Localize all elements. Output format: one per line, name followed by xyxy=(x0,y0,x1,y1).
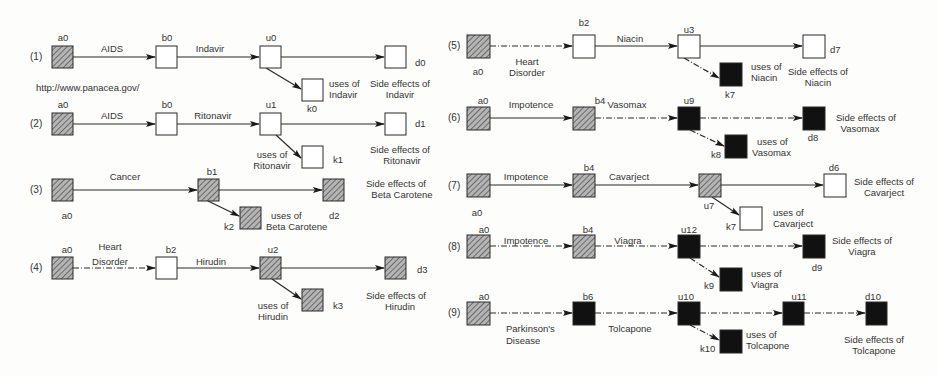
uses-label: Indavir xyxy=(329,89,358,100)
side-effects-label: Side effects of xyxy=(370,144,430,155)
node-d0 xyxy=(385,46,406,68)
node-d9 xyxy=(803,235,825,258)
node-u0 xyxy=(260,46,281,68)
node-label-d8: d8 xyxy=(808,132,819,143)
node-label-b0: b0 xyxy=(162,99,173,110)
node-b2-row5 xyxy=(573,35,595,58)
node-d1 xyxy=(385,113,406,135)
node-k2 xyxy=(240,207,261,229)
edge-label-disease: Disorder xyxy=(92,256,128,267)
edge-label-disease: AIDS xyxy=(101,110,123,121)
node-label-k7: k7 xyxy=(725,89,735,100)
node-label-a0: a0 xyxy=(472,207,483,218)
node-label-d2: d2 xyxy=(329,210,340,221)
node-a0-row5 xyxy=(467,35,490,58)
node-label-a0: a0 xyxy=(62,244,73,255)
node-k9 xyxy=(720,268,742,291)
node-k1 xyxy=(302,146,323,168)
side-effects-label: Hirudin xyxy=(385,301,415,312)
node-b2-row4 xyxy=(156,257,177,279)
node-label-d7: d7 xyxy=(830,44,841,55)
node-label-k7: k7 xyxy=(726,221,736,232)
side-effects-label: Niacin xyxy=(805,77,831,88)
node-label-d6: d6 xyxy=(829,162,840,173)
node-d8 xyxy=(803,107,825,130)
source-url: http://www.panacea.gov/ xyxy=(36,82,140,93)
row-number-9: (9) xyxy=(448,307,460,318)
node-label-u9: u9 xyxy=(684,95,695,106)
node-label-b2: b2 xyxy=(166,244,177,255)
node-label-a0: a0 xyxy=(479,291,490,302)
side-effects-label: Side effects of xyxy=(844,334,904,345)
side-effects-label: Side effects of xyxy=(788,66,848,77)
node-label-u0: u0 xyxy=(266,32,277,43)
edge-label-drug: Indavir xyxy=(196,43,225,54)
edge-label-drug: Niacin xyxy=(617,33,643,44)
edge-label-disease: AIDS xyxy=(101,43,123,54)
edge-label-drug: Hirudin xyxy=(196,256,226,267)
node-u1 xyxy=(260,113,281,135)
edge-label-disease: Parkinson's xyxy=(506,323,555,334)
node-label-k2: k2 xyxy=(224,221,234,232)
node-d2 xyxy=(323,179,344,201)
node-label-a0: a0 xyxy=(62,210,73,221)
edge-label-disease: Impotence xyxy=(504,235,548,246)
uses-label: Niacin xyxy=(751,72,777,83)
node-a0-row1 xyxy=(52,46,73,68)
node-b0-row2 xyxy=(156,113,177,135)
node-b1 xyxy=(198,179,219,201)
node-label-u3: u3 xyxy=(684,24,695,35)
node-label-a0: a0 xyxy=(58,32,69,43)
uses-label: Beta Carotene xyxy=(266,221,327,232)
uses-label: uses of xyxy=(751,268,782,279)
uses-label: uses of xyxy=(773,207,804,218)
edge-label-drug: Viagra xyxy=(614,235,641,246)
node-label-b4: b4 xyxy=(583,224,594,235)
node-k10 xyxy=(720,330,742,353)
node-label-b0: b0 xyxy=(162,32,173,43)
node-label-d10: d10 xyxy=(865,291,881,302)
node-b4-row8 xyxy=(573,235,595,258)
row-number-6: (6) xyxy=(448,112,460,123)
uses-label: Ritonavir xyxy=(253,160,291,171)
node-label-u7: u7 xyxy=(704,200,715,211)
node-k7-row7 xyxy=(740,207,762,230)
node-a0-row6 xyxy=(467,107,490,130)
node-label-a0: a0 xyxy=(473,66,484,77)
uses-label: Tolcapone xyxy=(746,340,789,351)
node-label-k1: k1 xyxy=(333,154,343,165)
side-effects-label: Side effects of xyxy=(836,112,896,123)
node-label-u11: u11 xyxy=(791,291,806,302)
side-effects-label: Side effects of xyxy=(366,178,426,189)
node-label-k9: k9 xyxy=(704,280,714,291)
edge-label-drug: Ritonavir xyxy=(194,110,232,121)
side-effects-label: Viagra xyxy=(848,246,875,257)
node-u10 xyxy=(678,302,700,325)
node-label-d1: d1 xyxy=(415,118,426,129)
node-b4-row7 xyxy=(573,174,595,197)
edge-label-disease: Disease xyxy=(506,335,540,346)
uses-label: uses of xyxy=(757,136,788,147)
node-u12 xyxy=(678,235,700,258)
node-label-b1: b1 xyxy=(207,166,218,177)
uses-label: Hirudin xyxy=(258,311,288,322)
node-k7-row5 xyxy=(720,63,742,86)
side-effects-label: Beta Carotene xyxy=(371,189,432,200)
node-label-b4: b4 xyxy=(595,95,606,106)
uses-label: uses of xyxy=(751,61,782,72)
side-effects-label: Side effects of xyxy=(854,176,914,187)
node-b6 xyxy=(573,302,595,325)
node-label-u2: u2 xyxy=(268,244,279,255)
side-effects-label: Side effects of xyxy=(370,78,430,89)
uses-label: uses of xyxy=(257,149,288,160)
edge-label-drug: Vasomax xyxy=(608,99,647,110)
node-label-d3: d3 xyxy=(417,264,428,275)
row-number-3: (3) xyxy=(30,184,42,195)
node-a0-row9 xyxy=(467,302,490,325)
node-u3 xyxy=(678,35,700,58)
node-a0-row7 xyxy=(467,174,490,197)
node-label-k10: k10 xyxy=(700,343,715,354)
uses-label: Cavarject xyxy=(773,218,813,229)
edge-label-disease: Heart xyxy=(515,56,538,67)
node-label-u1: u1 xyxy=(266,99,277,110)
